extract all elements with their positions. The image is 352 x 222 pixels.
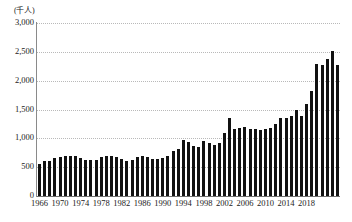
bar: [151, 159, 154, 196]
bar: [279, 118, 282, 196]
bar: [172, 151, 175, 196]
bar: [89, 160, 92, 196]
x-axis-tick-label: 1978: [93, 198, 110, 208]
bar: [238, 128, 241, 196]
gridline: [37, 23, 340, 24]
bar: [110, 156, 113, 196]
bar: [53, 158, 56, 196]
x-axis-tick-label: 1974: [72, 198, 89, 208]
x-axis-tick-label: 1994: [175, 198, 192, 208]
bar: [125, 161, 128, 196]
bar: [177, 149, 180, 196]
bar: [208, 143, 211, 196]
y-axis-tick-label: 2,500: [2, 47, 34, 56]
bar: [300, 116, 303, 196]
bar: [274, 124, 277, 196]
x-axis-tick-labels: 1966197019741978198219861990199419982002…: [37, 198, 340, 214]
bar: [59, 157, 62, 196]
bar: [223, 133, 226, 196]
bar: [305, 104, 308, 196]
bar: [326, 59, 329, 196]
y-axis-tick-label: 1,500: [2, 105, 34, 114]
bar: [243, 127, 246, 196]
bar: [315, 64, 318, 196]
bar: [64, 156, 67, 196]
bar: [141, 156, 144, 196]
x-axis-tick-label: 1986: [134, 198, 151, 208]
plot-area: [37, 23, 340, 196]
bar: [95, 160, 98, 196]
axis-baseline: [37, 196, 340, 197]
bar: [156, 159, 159, 196]
y-axis-tick-label: 0: [2, 191, 34, 200]
bar: [146, 157, 149, 196]
bar: [264, 129, 267, 196]
bar: [218, 143, 221, 196]
bar: [192, 146, 195, 196]
gridline: [37, 81, 340, 82]
bar: [131, 160, 134, 196]
bar: [285, 118, 288, 196]
y-axis-tick-label: 2,000: [2, 76, 34, 85]
bar: [74, 156, 77, 196]
x-axis-tick-label: 2006: [236, 198, 253, 208]
bar: [136, 157, 139, 197]
gridline: [37, 52, 340, 53]
bar: [336, 65, 339, 196]
y-axis-tick-labels: 05001,0001,5002,0002,5003,000: [0, 23, 34, 196]
x-axis-tick-label: 1966: [31, 198, 48, 208]
bar: [105, 156, 108, 196]
bar: [321, 65, 324, 196]
y-axis-unit-label: (千人): [14, 6, 35, 16]
bar: [259, 130, 262, 196]
bar: [269, 128, 272, 196]
chart-screenshot: (千人) 05001,0001,5002,0002,5003,000 19661…: [0, 0, 352, 222]
y-axis-tick-label: 1,000: [2, 133, 34, 142]
bar: [187, 142, 190, 196]
bar: [254, 129, 257, 196]
bar: [161, 158, 164, 196]
bar: [43, 161, 46, 196]
bar: [331, 51, 334, 196]
x-axis-tick-label: 2010: [257, 198, 274, 208]
bar: [310, 91, 313, 196]
bar: [69, 156, 72, 196]
bar: [166, 156, 169, 196]
bar: [228, 118, 231, 196]
bar: [115, 157, 118, 196]
bar: [202, 141, 205, 196]
bar: [249, 129, 252, 196]
bar: [182, 140, 185, 196]
bar: [120, 159, 123, 196]
bar: [79, 158, 82, 196]
bar: [295, 110, 298, 196]
bar: [290, 116, 293, 196]
bar: [197, 147, 200, 196]
bar: [38, 164, 41, 196]
y-axis-tick-label: 3,000: [2, 18, 34, 27]
y-axis-tick-label: 500: [2, 162, 34, 171]
bar: [100, 157, 103, 196]
bar: [84, 160, 87, 196]
x-axis-tick-label: 1990: [154, 198, 171, 208]
x-axis-tick-label: 1982: [113, 198, 130, 208]
x-axis-tick-label: 2018: [298, 198, 315, 208]
bar: [48, 161, 51, 196]
bar: [213, 145, 216, 196]
x-axis-tick-label: 1998: [195, 198, 212, 208]
x-axis-tick-label: 2014: [278, 198, 295, 208]
bar: [233, 129, 236, 196]
x-axis-tick-label: 1970: [52, 198, 69, 208]
x-axis-tick-label: 2002: [216, 198, 233, 208]
